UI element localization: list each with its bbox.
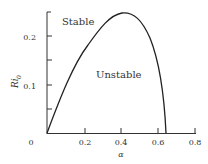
y-tick-label-0.1: 0.1 (23, 82, 36, 91)
x-tick-label-0.2: 0.2 (79, 138, 92, 147)
y-tick-label-0.2: 0.2 (23, 33, 36, 42)
x-axis-label: α (118, 150, 124, 159)
x-tick-label-0: 0 (28, 138, 33, 147)
x-tick-label-0.6: 0.6 (152, 138, 165, 147)
x-tick-label-0.8: 0.8 (189, 138, 202, 147)
stable-region-label: Stable (62, 16, 94, 27)
y-axis-label: Ri 0 (10, 75, 22, 89)
x-tick-label-0.4: 0.4 (115, 138, 128, 147)
unstable-region-label: Unstable (96, 69, 142, 80)
chart: 0.2 0.1 0 0.2 0.4 0.6 0.8 α Ri 0 Stable … (0, 0, 208, 164)
svg-text:0: 0 (15, 75, 22, 79)
